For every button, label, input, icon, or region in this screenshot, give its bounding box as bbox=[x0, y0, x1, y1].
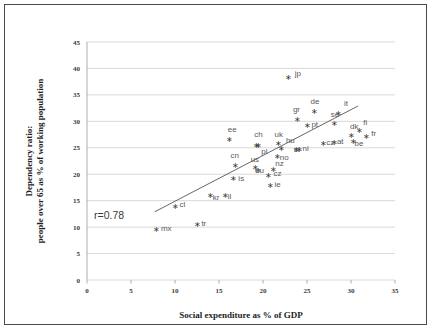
y-tick-label: 5 bbox=[77, 250, 81, 258]
x-axis-title: Social expenditure as % of GDP bbox=[179, 310, 303, 320]
data-point: ∗ bbox=[253, 141, 260, 150]
y-tick-label: 40 bbox=[73, 65, 81, 73]
data-point: ∗ bbox=[363, 132, 370, 141]
svg-text:∗: ∗ bbox=[363, 132, 370, 141]
point-label: be bbox=[355, 139, 364, 148]
y-tick-label: 25 bbox=[73, 144, 81, 152]
point-label: cz bbox=[326, 138, 334, 147]
y-tick-label: 35 bbox=[73, 91, 81, 99]
y-tick-label: 0 bbox=[77, 277, 81, 285]
point-label: jp bbox=[294, 69, 302, 78]
point-label: fr bbox=[371, 129, 376, 138]
point-label: de bbox=[311, 97, 320, 106]
x-tick-label: 20 bbox=[260, 287, 268, 295]
point-label: il bbox=[228, 192, 232, 201]
data-point: ∗ bbox=[267, 181, 274, 190]
point-label: si bbox=[294, 145, 300, 154]
point-label: uk bbox=[274, 130, 283, 139]
data-point: ∗ bbox=[194, 220, 201, 229]
point-label: no bbox=[280, 153, 289, 162]
y-tick-label: 30 bbox=[73, 118, 81, 126]
data-point: ∗ bbox=[172, 202, 179, 211]
point-label: nl bbox=[303, 144, 309, 153]
svg-text:∗: ∗ bbox=[226, 135, 233, 144]
point-label: mx bbox=[161, 224, 172, 233]
svg-text:∗: ∗ bbox=[331, 119, 338, 128]
data-point: ∗ bbox=[331, 119, 338, 128]
correlation-annotation: r=0.78 bbox=[94, 209, 124, 221]
svg-text:∗: ∗ bbox=[230, 174, 237, 183]
y-tick-label: 15 bbox=[73, 197, 81, 205]
point-label: is bbox=[238, 174, 244, 183]
svg-text:∗: ∗ bbox=[267, 181, 274, 190]
point-label: tr bbox=[201, 219, 206, 228]
point-label: pt bbox=[311, 120, 318, 129]
svg-text:∗: ∗ bbox=[285, 73, 292, 82]
point-label: at bbox=[337, 137, 344, 146]
svg-text:∗: ∗ bbox=[253, 141, 260, 150]
svg-text:∗: ∗ bbox=[294, 115, 301, 124]
y-axis-title-line1: Dependency ratio: bbox=[24, 126, 34, 197]
x-tick-label: 30 bbox=[348, 287, 356, 295]
x-tick-label: 5 bbox=[129, 287, 133, 295]
data-point: ∗ bbox=[304, 121, 311, 130]
point-label: cn bbox=[230, 151, 238, 160]
scatter-plot: 051015202530354045 05101520253035 ∗∗∗∗∗∗… bbox=[0, 0, 433, 331]
data-point: ∗ bbox=[232, 161, 239, 170]
point-labels: mxtrclkriliscneeuseuplchiecznznoukhujpsi… bbox=[161, 69, 377, 233]
svg-text:∗: ∗ bbox=[194, 220, 201, 229]
point-label: it bbox=[344, 99, 349, 108]
point-label: eu bbox=[255, 166, 264, 175]
point-label: pl bbox=[261, 147, 267, 156]
svg-text:∗: ∗ bbox=[153, 225, 160, 234]
svg-text:∗: ∗ bbox=[232, 161, 239, 170]
point-label: cz bbox=[274, 169, 282, 178]
data-point: ∗ bbox=[226, 135, 233, 144]
point-label: fi bbox=[363, 118, 367, 127]
svg-text:∗: ∗ bbox=[311, 107, 318, 116]
point-label: cl bbox=[179, 200, 185, 209]
x-tick-label: 0 bbox=[85, 287, 89, 295]
svg-text:∗: ∗ bbox=[278, 144, 285, 153]
x-tick-label: 25 bbox=[304, 287, 312, 295]
svg-text:∗: ∗ bbox=[172, 202, 179, 211]
data-point: ∗ bbox=[153, 225, 160, 234]
y-tick-label: 10 bbox=[73, 224, 81, 232]
y-tick-label: 45 bbox=[73, 39, 81, 47]
point-label: dk bbox=[350, 122, 359, 131]
x-tick-label: 35 bbox=[392, 287, 400, 295]
point-label: ie bbox=[274, 180, 281, 189]
point-label: kr bbox=[213, 193, 220, 202]
point-label: ch bbox=[254, 130, 262, 139]
point-label: se bbox=[331, 110, 340, 119]
x-ticks: 05101520253035 bbox=[85, 280, 399, 295]
x-tick-label: 15 bbox=[216, 287, 224, 295]
point-label: hu bbox=[286, 136, 295, 145]
point-label: gr bbox=[293, 105, 300, 114]
data-point: ∗ bbox=[230, 174, 237, 183]
data-point: ∗ bbox=[294, 115, 301, 124]
data-point: ∗ bbox=[311, 107, 318, 116]
svg-text:∗: ∗ bbox=[304, 121, 311, 130]
data-point: ∗ bbox=[278, 144, 285, 153]
x-tick-label: 10 bbox=[172, 287, 180, 295]
y-axis-title-line2: people over 65 as % of working populatio… bbox=[35, 79, 45, 244]
point-label: us bbox=[251, 155, 259, 164]
y-tick-label: 20 bbox=[73, 171, 81, 179]
point-label: ee bbox=[228, 125, 237, 134]
data-point: ∗ bbox=[285, 73, 292, 82]
